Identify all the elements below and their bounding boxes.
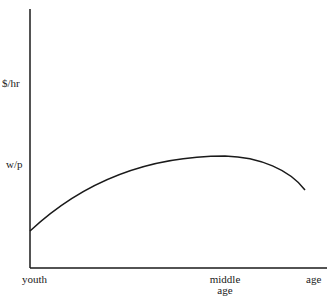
curve-label: w/p xyxy=(6,159,23,170)
x-tick-youth: youth xyxy=(22,274,47,285)
x-tick-middle: middle age xyxy=(200,274,250,296)
x-tick-middle-line2: age xyxy=(200,285,250,296)
wage-curve xyxy=(30,156,305,231)
y-axis-label: $/hr xyxy=(2,78,20,89)
chart-canvas xyxy=(0,0,332,299)
x-axis-label: age xyxy=(306,274,321,285)
